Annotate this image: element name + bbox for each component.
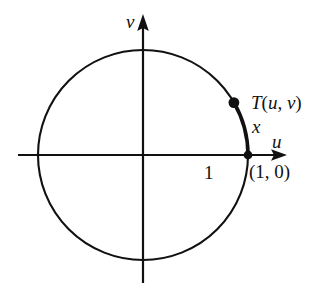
point-label-one-zero: (1, 0) bbox=[249, 162, 290, 181]
point-label-T: T(u, v) bbox=[251, 93, 302, 112]
point-marker-one-zero bbox=[244, 151, 253, 160]
point-label-T-close-paren: ) bbox=[295, 92, 301, 113]
v-axis-label: v bbox=[126, 12, 134, 31]
point-label-T-u: u bbox=[268, 92, 278, 113]
unit-circle-figure: v u T(u, v) x 1 (1, 0) bbox=[0, 0, 325, 288]
arc-length-label-x: x bbox=[252, 117, 260, 136]
point-label-T-comma: , bbox=[277, 92, 287, 113]
u-axis-label: u bbox=[272, 132, 282, 151]
point-marker-T bbox=[229, 97, 240, 108]
point-label-T-letter: T bbox=[251, 92, 262, 113]
arc-length-highlight bbox=[234, 103, 248, 156]
radius-tick-label-one: 1 bbox=[204, 163, 214, 182]
